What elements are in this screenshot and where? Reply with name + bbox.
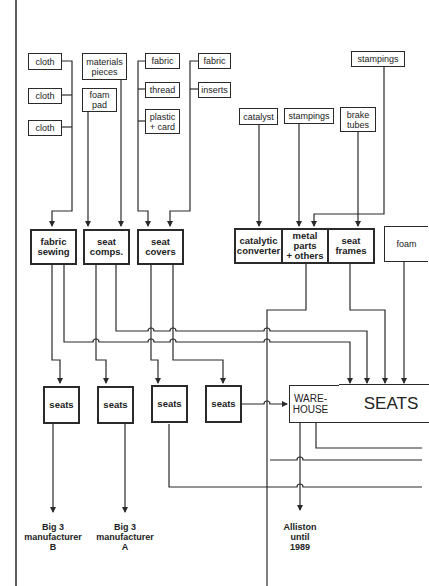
input-thread: thread bbox=[145, 82, 180, 98]
input-stampings-2: stampings bbox=[351, 51, 405, 67]
input-stampings-1: stampings bbox=[284, 108, 334, 124]
process-catalytic-converter: catalytic converter bbox=[234, 228, 283, 264]
input-cloth-1: cloth bbox=[28, 53, 62, 70]
input-materials-pieces: materials pieces bbox=[82, 53, 127, 80]
warehouse-box: WARE- HOUSE bbox=[289, 385, 340, 423]
input-brake-tubes: brake tubes bbox=[340, 107, 376, 132]
seats-main-box: SEATS bbox=[339, 384, 429, 423]
input-cloth-3: cloth bbox=[28, 120, 62, 136]
plant-seats-2: seats bbox=[97, 386, 134, 424]
process-fabric-sewing: fabric sewing bbox=[30, 229, 77, 265]
plant-seats-4: seats bbox=[205, 385, 242, 423]
input-inserts: inserts bbox=[198, 82, 231, 98]
input-foam-pad: foam pad bbox=[82, 88, 117, 112]
destination-big3-a: Big 3 manufacturer A bbox=[90, 522, 160, 552]
process-seat-comps: seat comps. bbox=[83, 229, 130, 265]
input-fabric-2: fabric bbox=[198, 53, 231, 69]
destination-alliston: Alliston until 1989 bbox=[270, 522, 330, 552]
input-catalyst: catalyst bbox=[239, 108, 278, 125]
process-seat-frames: seat frames bbox=[327, 228, 375, 264]
process-foam: foam bbox=[384, 226, 428, 262]
process-seat-covers: seat covers bbox=[137, 229, 184, 265]
input-cloth-2: cloth bbox=[28, 88, 62, 104]
plant-seats-3: seats bbox=[151, 385, 188, 423]
input-fabric-1: fabric bbox=[145, 53, 180, 69]
process-metal-parts: metal parts + others bbox=[281, 228, 329, 264]
plant-seats-1: seats bbox=[43, 386, 80, 424]
input-plastic-card: plastic + card bbox=[145, 109, 180, 134]
destination-big3-b: Big 3 manufacturer B bbox=[18, 522, 88, 552]
